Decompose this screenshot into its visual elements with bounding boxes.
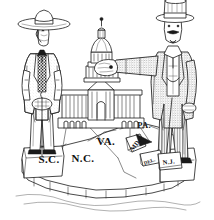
state-label-pa: PA. bbox=[137, 120, 151, 130]
state-label-nc: N.C. bbox=[72, 152, 95, 164]
state-label-va: VA. bbox=[97, 135, 115, 147]
engraving-artwork: S.C. N.C. VA. PA. MD. DEL. N.J. bbox=[0, 0, 214, 220]
cartoon-canvas: S.C. N.C. VA. PA. MD. DEL. N.J. bbox=[0, 0, 214, 220]
state-label-sc: S.C. bbox=[38, 153, 59, 165]
